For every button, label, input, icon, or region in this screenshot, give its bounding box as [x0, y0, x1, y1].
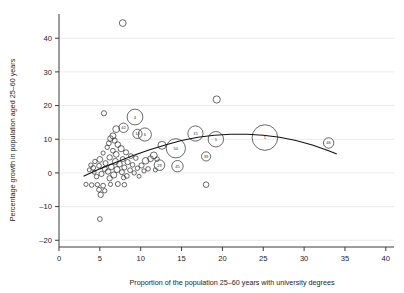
- bubble-point: [97, 187, 102, 192]
- y-axis-title: Percentage growth in population aged 25–…: [8, 58, 17, 221]
- x-axis-title: Proportion of the population 25–60 years…: [130, 278, 335, 287]
- bubble-point: [137, 174, 141, 178]
- bubble-point: [146, 167, 151, 172]
- y-tick-label: 20: [44, 101, 52, 110]
- bubble-label: 42: [121, 125, 126, 130]
- y-tick-label: 0: [48, 169, 52, 178]
- axis-lines: [59, 14, 394, 247]
- bubble-point: [97, 163, 102, 168]
- x-tick-label: 5: [98, 254, 102, 263]
- gridlines: [60, 38, 394, 240]
- bubble-point: [122, 165, 127, 170]
- bubble-point: [93, 159, 97, 163]
- bubble-point: [123, 150, 128, 155]
- bubble-point: [134, 156, 139, 161]
- bubble-point: [119, 170, 124, 175]
- bubble-point: [105, 145, 109, 149]
- bubble-point: [99, 171, 104, 176]
- y-tick-label: –20: [39, 236, 52, 245]
- bubble-point: [103, 161, 108, 166]
- x-tick-label: 20: [218, 254, 226, 263]
- y-tick-label: 10: [44, 135, 52, 144]
- bubble-point: [89, 183, 94, 188]
- chart-canvas: 0510152025303540 –20–10010203040 1504515…: [0, 0, 404, 293]
- y-tick-label: 40: [44, 34, 52, 43]
- bubble-point: [107, 155, 112, 160]
- bubble-point: [89, 163, 93, 167]
- bubble-point: [130, 163, 135, 168]
- bubble-point: [101, 151, 105, 155]
- bubble-point: [114, 167, 120, 173]
- x-tick-label: 0: [57, 254, 61, 263]
- bubble-label: 29: [157, 163, 162, 168]
- bubble-label: 13: [135, 131, 140, 136]
- bubble-point: [105, 169, 110, 174]
- bubble-label: 45: [175, 164, 180, 169]
- bubble-point: [103, 189, 107, 193]
- bubble-point: [94, 174, 99, 179]
- x-tick-label: 30: [300, 254, 308, 263]
- bubble-point: [101, 183, 106, 188]
- bubble-label: 4: [134, 115, 137, 120]
- bubble-point: [128, 168, 133, 173]
- x-tick-label: 10: [136, 254, 144, 263]
- bubble-point: [91, 166, 96, 171]
- bubble-point: [84, 182, 88, 186]
- bubble-point: [101, 111, 106, 116]
- bubble-point: [113, 126, 120, 133]
- x-tick-label: 25: [259, 254, 267, 263]
- y-axis-ticks: –20–10010203040: [39, 34, 59, 245]
- bubble-point: [115, 182, 120, 187]
- bubble-point: [108, 182, 112, 186]
- bubble-label: 15: [193, 131, 198, 136]
- bubble-point: [213, 96, 220, 103]
- bubble-point: [135, 166, 139, 170]
- bubble-point: [142, 169, 146, 173]
- y-tick-label: –10: [39, 202, 52, 211]
- bubble-scatter-figure: 0510152025303540 –20–10010203040 1504515…: [0, 0, 404, 293]
- bubble-label: 50: [174, 146, 179, 151]
- bubble-point: [98, 192, 103, 197]
- bubble-point: [95, 182, 99, 186]
- bubble-point: [122, 182, 127, 187]
- bubble-point: [87, 168, 91, 172]
- bubble-label: 6: [144, 132, 147, 137]
- bubble-point: [150, 152, 157, 159]
- bubble-point: [111, 148, 116, 153]
- bubble-label: 46: [326, 140, 331, 145]
- y-tick-label: 30: [44, 68, 52, 77]
- bubble-point: [118, 146, 124, 152]
- bubble-series: 15045156452946421339: [84, 20, 334, 222]
- x-tick-label: 40: [382, 254, 390, 263]
- bubble-point: [97, 217, 102, 222]
- x-tick-label: 15: [177, 254, 185, 263]
- bubble-point: [97, 157, 103, 163]
- bubble-point: [203, 182, 209, 188]
- bubble-point: [125, 160, 130, 165]
- bubble-label: 39: [204, 154, 209, 159]
- bubble-point: [107, 176, 112, 181]
- x-tick-label: 35: [341, 254, 349, 263]
- bubble-point: [119, 20, 126, 27]
- x-axis-ticks: 0510152025303540: [57, 247, 390, 263]
